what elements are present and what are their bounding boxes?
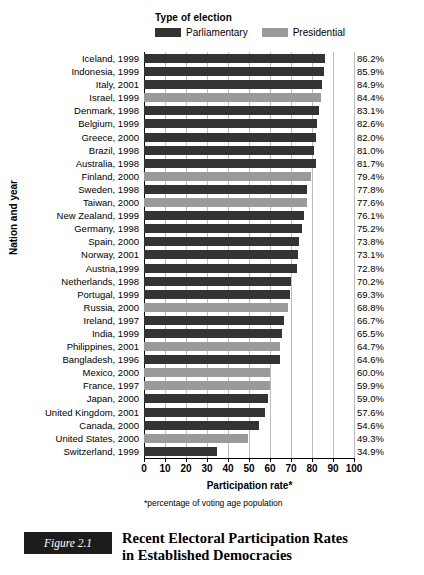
bar-track — [144, 392, 354, 405]
bar-row: Taiwan, 200077.6% — [0, 196, 424, 209]
bar-value-label: 76.1% — [354, 209, 384, 222]
bar-track — [144, 144, 354, 157]
bar-row: Ireland, 199766.7% — [0, 314, 424, 327]
bar — [144, 264, 297, 273]
bar-track — [144, 131, 354, 144]
bar-row-label: Philippines, 2001 — [0, 340, 144, 353]
bar — [144, 277, 291, 286]
bar-track — [144, 419, 354, 432]
bar-row-label: Brazil, 1998 — [0, 144, 144, 157]
bar-track — [144, 91, 354, 104]
bar-row: Germany, 199875.2% — [0, 222, 424, 235]
bar-value-label: 81.7% — [354, 157, 384, 170]
bar-row-label: United States, 2000 — [0, 432, 144, 445]
bar-row-label: Indonesia, 1999 — [0, 65, 144, 78]
x-axis-title: Participation rate* — [144, 480, 355, 491]
bar-row-label: Italy, 2001 — [0, 78, 144, 91]
bar-track — [144, 222, 354, 235]
bar-row-label: Taiwan, 2000 — [0, 196, 144, 209]
bar-value-label: 86.2% — [354, 52, 384, 65]
bar-track — [144, 353, 354, 366]
bar — [144, 133, 316, 142]
bar-row: Austria,199972.8% — [0, 262, 424, 275]
bar-value-label: 65.5% — [354, 327, 384, 340]
bar — [144, 421, 259, 430]
bar — [144, 185, 307, 194]
bar-value-label: 68.8% — [354, 301, 384, 314]
bar-value-label: 66.7% — [354, 314, 384, 327]
bar-row: France, 199759.9% — [0, 379, 424, 392]
bar-row: Canada, 200054.6% — [0, 419, 424, 432]
bar-track — [144, 366, 354, 379]
bar-track — [144, 117, 354, 130]
bar-row: Greece, 200082.0% — [0, 131, 424, 144]
bar-track — [144, 301, 354, 314]
bar — [144, 329, 282, 338]
figure-title-line-2: in Established Democracies — [122, 547, 348, 564]
bar-track — [144, 52, 354, 65]
bar-row-label: Switzerland, 1999 — [0, 445, 144, 458]
bar-row: Denmark, 199883.1% — [0, 104, 424, 117]
bar-value-label: 59.0% — [354, 392, 384, 405]
bar — [144, 408, 265, 417]
bar — [144, 250, 298, 259]
x-axis-tick — [312, 458, 313, 462]
bar-row-label: United Kingdom, 2001 — [0, 406, 144, 419]
bar-track — [144, 196, 354, 209]
bar-chart: Nation and year Iceland, 199986.2%Indone… — [0, 52, 424, 472]
bar-row: Italy, 200184.9% — [0, 78, 424, 91]
figure-title-line-1: Recent Electoral Participation Rates — [122, 530, 348, 547]
bar-row-label: Belgium, 1999 — [0, 117, 144, 130]
bar — [144, 119, 317, 128]
bar-track — [144, 406, 354, 419]
bar-row-label: Bangladesh, 1996 — [0, 353, 144, 366]
bar-track — [144, 78, 354, 91]
bar-row-label: Ireland, 1997 — [0, 314, 144, 327]
bar-rows: Iceland, 199986.2%Indonesia, 199985.9%It… — [0, 52, 424, 458]
bar-row-label: Greece, 2000 — [0, 131, 144, 144]
figure-number-badge: Figure 2.1 — [24, 532, 112, 554]
bar — [144, 434, 248, 443]
bar — [144, 54, 325, 63]
bar-track — [144, 104, 354, 117]
bar-value-label: 82.0% — [354, 131, 384, 144]
bar-value-label: 83.1% — [354, 104, 384, 117]
bar-value-label: 77.8% — [354, 183, 384, 196]
bar-value-label: 73.8% — [354, 235, 384, 248]
bar-value-label: 57.6% — [354, 406, 384, 419]
bar — [144, 159, 316, 168]
bar-row-label: Australia, 1998 — [0, 157, 144, 170]
bar-row: Philippines, 200164.7% — [0, 340, 424, 353]
x-axis-tick — [270, 458, 271, 462]
bar-track — [144, 183, 354, 196]
x-axis-tick — [186, 458, 187, 462]
bar — [144, 355, 280, 364]
bar-track — [144, 248, 354, 261]
bar-row-label: Norway, 2001 — [0, 248, 144, 261]
bar-row-label: Netherlands, 1998 — [0, 275, 144, 288]
bar-value-label: 64.7% — [354, 340, 384, 353]
bar-track — [144, 157, 354, 170]
x-axis-tick — [207, 458, 208, 462]
bar-row-label: India, 1999 — [0, 327, 144, 340]
bar — [144, 80, 322, 89]
x-axis-tick — [228, 458, 229, 462]
bar-value-label: 85.9% — [354, 65, 384, 78]
bar-track — [144, 262, 354, 275]
bar-row-label: Canada, 2000 — [0, 419, 144, 432]
bar-row: India, 199965.5% — [0, 327, 424, 340]
bar-row: Sweden, 199877.8% — [0, 183, 424, 196]
bar-track — [144, 340, 354, 353]
bar-row: Russia, 200068.8% — [0, 301, 424, 314]
bar — [144, 316, 284, 325]
bar-value-label: 72.8% — [354, 262, 384, 275]
x-axis-tick-label: 100 — [342, 463, 366, 474]
bar — [144, 368, 270, 377]
bar-row: United States, 200049.3% — [0, 432, 424, 445]
bar-row-label: Iceland, 1999 — [0, 52, 144, 65]
bar — [144, 290, 290, 299]
bar — [144, 303, 288, 312]
bar-row-label: Mexico, 2000 — [0, 366, 144, 379]
bar — [144, 93, 321, 102]
bar-row-label: Spain, 2000 — [0, 235, 144, 248]
